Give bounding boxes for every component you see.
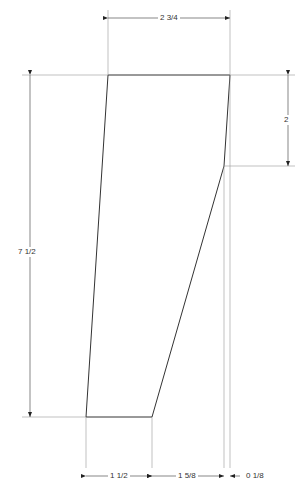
dim-bottom-left: 1 1/2 — [108, 471, 130, 481]
dim-bottom-middle: 1 5/8 — [176, 471, 198, 481]
dim-bottom-right: 0 1/8 — [244, 471, 266, 481]
drawing-canvas — [0, 0, 303, 494]
extension-lines — [22, 10, 295, 468]
dim-top-width: 2 3/4 — [158, 13, 180, 23]
dim-right-drop: 2 — [282, 115, 290, 125]
panel-outline — [86, 75, 230, 417]
dim-height: 7 1/2 — [16, 247, 38, 257]
dimension-lines — [30, 18, 288, 476]
